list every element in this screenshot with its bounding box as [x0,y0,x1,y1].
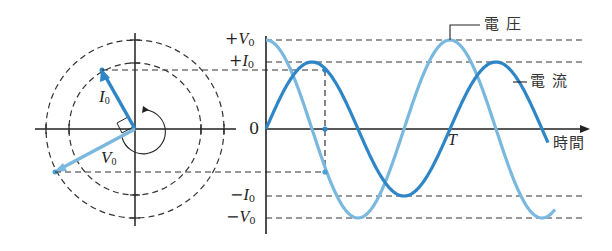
tick-plus-v0: +V0 [225,31,255,48]
tick-plus-i0: +I0 [229,53,254,70]
phasor-and-waveform-diagram [0,0,612,251]
time-axis-arrow-icon [580,125,590,133]
voltage-phasor [60,129,135,169]
projection-point-current [322,67,327,72]
projection-point-voltage [322,169,327,174]
time-axis-label: 時間 [553,136,585,151]
projection-lines [55,70,325,172]
waveform-graph [266,25,590,234]
current-legend: 電 流 [530,74,568,89]
voltage-legend-leader [450,25,480,40]
phasor-diagram [35,33,236,226]
tick-minus-i0: −I0 [230,187,255,204]
tick-zero: 0 [249,121,259,137]
projection-point-zero [322,126,327,131]
tick-minus-v0: −V0 [226,209,256,226]
period-label: T [448,132,457,148]
voltage-phasor-label: V0 [101,149,116,167]
voltage-legend: 電 圧 [484,17,522,32]
current-phasor-label: I0 [99,88,110,106]
